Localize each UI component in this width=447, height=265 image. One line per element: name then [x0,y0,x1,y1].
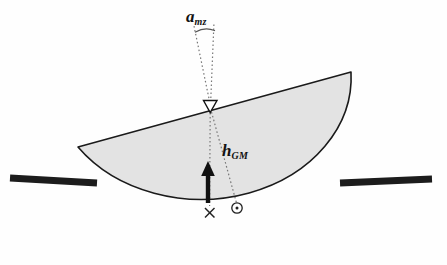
waterline-right [340,179,432,183]
angle-label-amz: amz [186,8,207,27]
cross-marker [205,208,215,218]
stability-diagram: amz hGM [0,0,447,265]
angle-label-base: a [186,7,195,26]
height-label-hgm: hGM [222,142,248,161]
heel-angle-arc [196,29,215,32]
angle-label-subscript: mz [195,16,207,27]
heel-reference-line-left [194,26,211,106]
heeled-hull-dome [78,72,351,199]
vertical-reference-line [211,22,215,106]
circle-dot-marker [232,203,242,213]
height-label-subscript: GM [231,150,248,161]
diagram-canvas [0,0,447,265]
waterline-left [10,178,97,183]
